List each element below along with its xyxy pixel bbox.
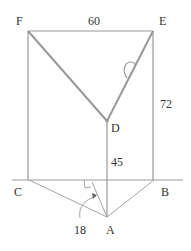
label-A: A — [106, 223, 115, 237]
vertex-dot-D — [105, 119, 108, 122]
label-D: D — [111, 121, 120, 135]
right-angle-mark — [84, 180, 91, 188]
segment-BA — [107, 180, 154, 217]
label-F: F — [16, 14, 23, 28]
geometry-diagram: F E D C B A 60 72 45 18 — [0, 0, 191, 251]
measure-FE: 60 — [88, 14, 100, 28]
measure-EB: 72 — [160, 97, 172, 111]
segment-ED — [107, 31, 153, 121]
altitude-segment — [92, 182, 107, 217]
measure-DA: 45 — [111, 155, 123, 169]
arrow-head-icon — [92, 193, 97, 199]
segment-CA — [29, 180, 107, 217]
label-E: E — [159, 14, 166, 28]
curved-arrow — [80, 196, 96, 218]
segment-FD — [28, 31, 107, 121]
label-C: C — [14, 185, 22, 199]
measure-altitude: 18 — [74, 223, 86, 237]
label-B: B — [161, 185, 169, 199]
